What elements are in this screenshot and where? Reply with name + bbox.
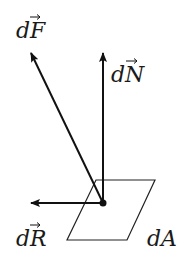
label-area: dA bbox=[147, 226, 177, 251]
origin-point bbox=[100, 200, 107, 207]
force-diagram: dF dN dR dA bbox=[0, 0, 186, 261]
label-normal: dN bbox=[111, 59, 145, 88]
svg-text:dF: dF bbox=[16, 18, 46, 43]
svg-text:dN: dN bbox=[111, 62, 145, 87]
svg-text:dR: dR bbox=[16, 226, 47, 251]
label-resultant: dR bbox=[16, 223, 47, 252]
area-element bbox=[67, 180, 155, 240]
force-vector-arrow bbox=[31, 53, 103, 203]
label-force: dF bbox=[16, 15, 46, 44]
